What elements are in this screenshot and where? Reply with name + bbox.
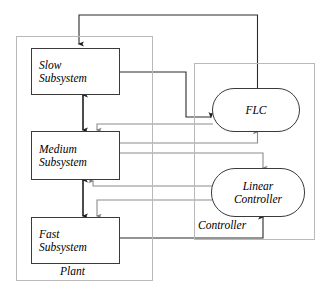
block-fast-subsystem[interactable]: Fast Subsystem: [31, 217, 120, 264]
block-flc-label: FLC: [245, 104, 266, 117]
block-slow-subsystem-line1: Slow: [39, 59, 61, 72]
block-slow-subsystem[interactable]: Slow Subsystem: [31, 48, 120, 95]
block-flc[interactable]: FLC: [212, 88, 300, 132]
block-slow-subsystem-line2: Subsystem: [39, 72, 87, 85]
block-medium-subsystem-line2: Subsystem: [39, 156, 87, 169]
plant-label: Plant: [58, 265, 87, 277]
block-medium-subsystem[interactable]: Medium Subsystem: [31, 131, 120, 180]
block-linear-controller-line2: Controller: [234, 193, 282, 206]
block-fast-subsystem-line1: Fast: [39, 228, 59, 241]
block-linear-controller-line1: Linear: [243, 180, 274, 193]
controller-label: Controller: [196, 219, 248, 231]
diagram-canvas: Slow Subsystem Medium Subsystem Fast Sub…: [0, 0, 330, 297]
block-medium-subsystem-line1: Medium: [39, 143, 77, 156]
block-fast-subsystem-line2: Subsystem: [39, 241, 87, 254]
block-linear-controller[interactable]: Linear Controller: [211, 168, 305, 217]
